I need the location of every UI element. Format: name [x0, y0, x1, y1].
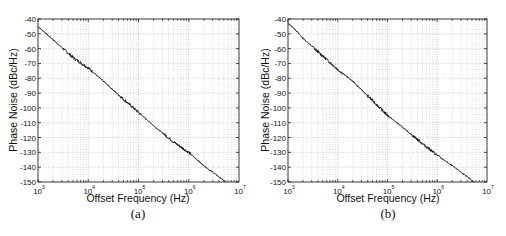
y-tick-label: -100	[12, 103, 36, 112]
y-tick-label: -110	[12, 118, 36, 127]
x-tick-label: 106	[432, 185, 444, 196]
y-tick-label: -120	[262, 133, 286, 142]
chart-panel-a: Phase Noise (dBc/Hz) Offset Frequency (H…	[0, 0, 253, 236]
y-tick-label: -60	[262, 44, 286, 53]
y-tick-label: -70	[262, 59, 286, 68]
y-tick-label: -40	[12, 15, 36, 24]
y-tick-label: -50	[12, 29, 36, 38]
x-tick-label: 105	[134, 185, 146, 196]
plot-frame	[38, 19, 239, 182]
y-tick-label: -90	[12, 89, 36, 98]
caption-a: (a)	[118, 206, 158, 222]
y-tick-label: -40	[262, 15, 286, 24]
y-tick-label: -110	[262, 118, 286, 127]
y-tick-label: -70	[12, 59, 36, 68]
plot-frame	[288, 19, 487, 182]
y-tick-label: -50	[262, 29, 286, 38]
x-tick-label: 107	[482, 185, 494, 196]
x-tick-label: 105	[383, 185, 395, 196]
y-tick-label: -140	[12, 163, 36, 172]
y-tick-label: -130	[262, 148, 286, 157]
x-tick-label: 103	[283, 185, 295, 196]
phase-noise-curve	[38, 26, 226, 181]
y-tick-label: -90	[262, 89, 286, 98]
x-tick-label: 106	[184, 185, 196, 196]
y-tick-label: -80	[262, 74, 286, 83]
x-tick-label: 103	[33, 185, 45, 196]
grid	[288, 19, 487, 182]
y-tick-label: -120	[12, 133, 36, 142]
y-tick-label: -60	[12, 44, 36, 53]
caption-b: (b)	[368, 206, 408, 222]
axis-ticks	[38, 19, 239, 182]
grid	[38, 19, 239, 182]
y-tick-label: -100	[262, 103, 286, 112]
x-tick-label: 104	[333, 185, 345, 196]
axis-ticks	[288, 19, 487, 182]
y-tick-label: -140	[262, 163, 286, 172]
chart-panel-b: Phase Noise (dBc/Hz) Offset Frequency (H…	[253, 0, 506, 236]
x-tick-label: 104	[83, 185, 95, 196]
phase-noise-curve	[288, 23, 474, 182]
y-tick-label: -80	[12, 74, 36, 83]
y-tick-label: -130	[12, 148, 36, 157]
x-tick-label: 107	[234, 185, 246, 196]
